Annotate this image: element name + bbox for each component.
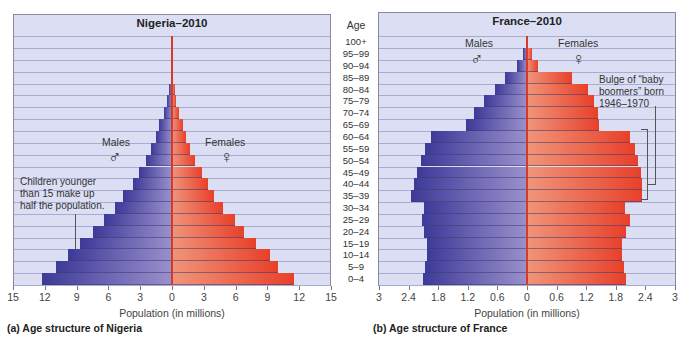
nigeria-x-axis-label: Population (in millions) xyxy=(13,307,331,319)
male-bar-40–44 xyxy=(414,178,527,190)
tick-label: 0.6 xyxy=(490,291,505,303)
tick-mark xyxy=(204,286,205,290)
tick-label: 9 xyxy=(74,291,80,303)
male-bar-35–39 xyxy=(411,190,527,202)
tick-mark xyxy=(497,286,498,290)
france-x-axis-label: Population (in millions) xyxy=(378,307,676,319)
female-bar-60–64 xyxy=(527,131,630,143)
tick-label: 0.6 xyxy=(549,291,564,303)
male-bar-15–19 xyxy=(80,238,172,250)
female-bar-90–94 xyxy=(527,60,538,72)
male-bar-25–29 xyxy=(422,214,527,226)
france-annotation-leader xyxy=(655,106,656,185)
age-label: 10–14 xyxy=(333,249,379,260)
tick-mark xyxy=(645,286,646,290)
female-bar-0–4 xyxy=(172,273,294,285)
france-males-label: Males xyxy=(465,37,493,49)
male-bar-20–24 xyxy=(424,226,527,238)
tick-label: 15 xyxy=(7,291,19,303)
tick-label: 3 xyxy=(672,291,678,303)
female-bar-65–69 xyxy=(172,119,183,131)
age-label: 60–64 xyxy=(333,131,379,142)
age-label: 85–89 xyxy=(333,72,379,83)
france-bracket xyxy=(641,129,648,130)
female-symbol-icon: ♀ xyxy=(220,148,234,166)
age-label: 25–29 xyxy=(333,214,379,225)
male-bar-15–19 xyxy=(427,238,527,250)
female-bar-75–79 xyxy=(527,95,594,107)
tick-mark xyxy=(13,286,14,290)
age-label: 15–19 xyxy=(333,238,379,249)
tick-mark xyxy=(468,286,469,290)
tick-label: 3 xyxy=(376,291,382,303)
annotation-line: Children younger xyxy=(20,176,105,188)
female-bar-65–69 xyxy=(527,119,599,131)
male-bar-55–59 xyxy=(425,143,527,155)
tick-mark xyxy=(379,286,380,290)
male-bar-65–69 xyxy=(466,119,527,131)
tick-mark xyxy=(409,286,410,290)
male-bar-10–14 xyxy=(427,249,527,261)
age-label: 35–39 xyxy=(333,190,379,201)
tick-label: 2.4 xyxy=(401,291,416,303)
nigeria-caption: (a) Age structure of Nigeria xyxy=(7,322,142,334)
tick-mark xyxy=(557,286,558,290)
male-bar-50–54 xyxy=(421,155,527,167)
female-bar-0–4 xyxy=(527,273,626,285)
female-bar-25–29 xyxy=(172,214,235,226)
male-bar-75–79 xyxy=(484,95,527,107)
tick-label: 12 xyxy=(293,291,305,303)
tick-label: 3 xyxy=(137,291,143,303)
male-bar-5–9 xyxy=(425,261,527,273)
female-bar-55–59 xyxy=(172,143,190,155)
female-bar-40–44 xyxy=(527,178,642,190)
age-label: 50–54 xyxy=(333,155,379,166)
female-bar-70–74 xyxy=(527,107,598,119)
male-bar-60–64 xyxy=(156,131,172,143)
female-bar-30–34 xyxy=(172,202,223,214)
tick-mark xyxy=(331,286,332,290)
male-bar-50–54 xyxy=(146,155,173,167)
female-bar-55–59 xyxy=(527,143,635,155)
tick-mark xyxy=(675,286,676,290)
age-label: 0–4 xyxy=(333,273,379,284)
female-symbol-icon: ♀ xyxy=(572,50,586,68)
tick-label: 1.8 xyxy=(431,291,446,303)
age-label: 55–59 xyxy=(333,143,379,154)
age-label: 80–84 xyxy=(333,84,379,95)
male-bar-60–64 xyxy=(431,131,527,143)
age-label: 90–94 xyxy=(333,60,379,71)
age-label: 75–79 xyxy=(333,95,379,106)
male-bar-30–34 xyxy=(424,202,527,214)
nigeria-annotation: Children younger than 15 make up half th… xyxy=(20,176,105,212)
male-bar-25–29 xyxy=(104,214,172,226)
tick-label: 6 xyxy=(233,291,239,303)
female-bar-45–49 xyxy=(172,167,202,179)
tick-mark xyxy=(299,286,300,290)
male-bar-40–44 xyxy=(133,178,172,190)
female-bar-35–39 xyxy=(527,190,642,202)
female-bar-35–39 xyxy=(172,190,214,202)
age-label: 30–34 xyxy=(333,202,379,213)
female-bar-25–29 xyxy=(527,214,630,226)
annotation-line: boomers” born xyxy=(599,86,664,98)
male-bar-80–84 xyxy=(495,84,527,96)
female-bar-50–54 xyxy=(172,155,195,167)
male-symbol-icon: ♂ xyxy=(470,50,484,68)
female-bar-60–64 xyxy=(172,131,186,143)
tick-mark xyxy=(438,286,439,290)
age-axis-header: Age xyxy=(333,19,379,31)
female-bar-10–14 xyxy=(172,249,270,261)
male-bar-65–69 xyxy=(159,119,172,131)
male-bar-0–4 xyxy=(423,273,527,285)
tick-label: 0 xyxy=(524,291,530,303)
tick-label: 1.2 xyxy=(579,291,594,303)
male-bar-35–39 xyxy=(123,190,172,202)
male-bar-70–74 xyxy=(474,107,527,119)
france-females-label: Females xyxy=(558,37,598,49)
age-label: 40–44 xyxy=(333,178,379,189)
tick-label: 2.4 xyxy=(638,291,653,303)
tick-mark xyxy=(45,286,46,290)
zero-line xyxy=(526,36,528,285)
female-bar-95–99 xyxy=(527,48,532,60)
